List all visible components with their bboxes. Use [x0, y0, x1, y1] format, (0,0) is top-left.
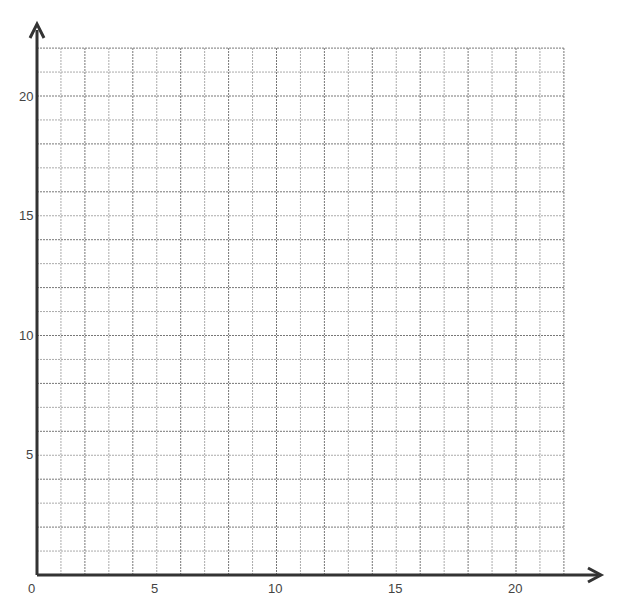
y-tick-15: 15	[19, 208, 33, 223]
origin-label: 0	[28, 581, 35, 596]
x-tick-20: 20	[508, 581, 522, 596]
coordinate-grid: 0 5 10 15 20 5 10 15 20	[0, 0, 624, 607]
grid-lines	[37, 48, 564, 575]
y-tick-20: 20	[19, 89, 33, 104]
x-tick-15: 15	[388, 581, 402, 596]
y-tick-5: 5	[26, 447, 33, 462]
x-tick-5: 5	[151, 581, 158, 596]
y-tick-10: 10	[19, 328, 33, 343]
x-tick-10: 10	[268, 581, 282, 596]
